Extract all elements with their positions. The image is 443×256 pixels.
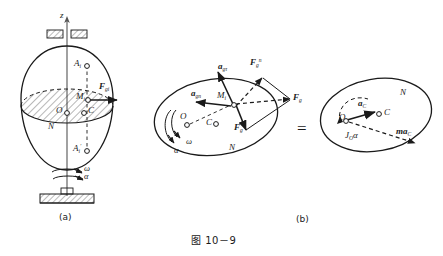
force-label-fgi-a: Fgi — [99, 82, 109, 92]
force-normal-label: Fgn — [250, 58, 262, 68]
force-label-fgi-a-idx: i — [108, 86, 110, 92]
point-label-Mi-b-sub: i — [225, 95, 227, 101]
point-label-C-b: C — [206, 118, 212, 127]
point-label-O-a: O — [56, 106, 63, 115]
inertia-force-letters: ma — [396, 126, 408, 136]
point-marker-Mi-b — [232, 103, 237, 108]
point-marker-C-b — [214, 122, 219, 127]
moment-alpha: α — [353, 130, 358, 140]
panel-a-label: (a) — [59, 213, 72, 222]
force-tangential-label: Fgτ — [234, 123, 245, 133]
force-normal-sup: n — [259, 57, 262, 63]
inertia-force-sub: C — [408, 131, 412, 137]
point-label-Ai-prime: Ai′ — [73, 144, 81, 154]
point-marker-O-a — [65, 111, 70, 116]
body-outline-b — [149, 71, 282, 164]
figure-caption: 图 10－9 — [191, 236, 236, 246]
force-tangential-sup: τ — [243, 122, 245, 128]
body-label-N-c: N — [400, 88, 406, 97]
point-marker-Mi — [86, 98, 91, 103]
point-marker-C-a — [82, 111, 87, 116]
omega-label-b: ω — [186, 137, 192, 146]
alpha-label-b: α — [174, 146, 178, 155]
point-label-Mi-a: Mi — [76, 92, 85, 102]
accel-normal-sub: gn — [196, 93, 202, 99]
point-label-O-b: O — [180, 112, 187, 121]
panel-a-graphics — [21, 16, 117, 203]
body-label-N-a: N — [48, 122, 54, 131]
z-axis-label: z — [60, 11, 64, 20]
body-label-N-b: N — [229, 143, 235, 152]
accel-normal-vector — [196, 102, 231, 106]
body-outline-c — [315, 70, 438, 160]
accel-tangential-label: agτ — [218, 62, 227, 72]
point-label-Ai-prime-mark: ′ — [80, 143, 81, 149]
parallelogram-side-1 — [263, 78, 290, 99]
point-marker-Ai — [85, 64, 90, 69]
point-label-Mi-a-sub: i — [84, 96, 86, 102]
inertia-force-label: maC — [396, 127, 411, 137]
figure-10-9: z Ai Ai′ Mi O C N Fgi ω α (a) agτ agn Mi… — [0, 0, 443, 256]
panel-b-label: (b) — [296, 215, 309, 224]
moment-label: JOα — [345, 131, 358, 141]
panel-b-right-graphics — [315, 70, 438, 160]
alpha-label-a: α — [84, 172, 88, 181]
force-resultant-sub: g — [299, 97, 302, 103]
point-label-Mi-a-letter: M — [76, 91, 84, 101]
alpha-arc-b — [165, 110, 172, 142]
accel-C-sub: C — [363, 103, 367, 109]
equals-sign: = — [297, 120, 307, 137]
point-label-C-a: C — [88, 106, 94, 115]
point-marker-O-b — [185, 123, 190, 128]
accel-C-label: aC — [358, 99, 366, 109]
force-resultant-label-b: Fg — [293, 93, 302, 103]
point-marker-Ai-prime — [85, 149, 90, 154]
point-label-Mi-b: Mi — [217, 91, 226, 101]
point-label-Ai-sub: i — [80, 63, 82, 69]
panel-b-left-graphics — [149, 71, 290, 164]
force-resultant-vector-b — [236, 99, 290, 104]
point-label-Mi-b-letter: M — [217, 90, 225, 100]
point-label-Ai: Ai — [74, 59, 81, 69]
point-label-O-c: O — [339, 113, 346, 122]
accel-tangential-sub: gτ — [223, 66, 228, 72]
accel-C-vector — [347, 112, 375, 120]
accel-normal-label: agn — [191, 89, 201, 99]
parallelogram-side-2 — [246, 100, 290, 130]
point-marker-C-c — [377, 112, 382, 117]
point-label-C-c: C — [384, 108, 390, 117]
